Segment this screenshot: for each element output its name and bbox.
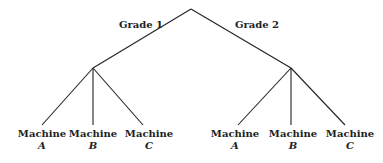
tree-diagram: Grade 1 Grade 2 Machine A Machine B Mach… [0, 0, 383, 163]
leaf-grade1-machine-c: Machine C [125, 128, 173, 152]
edge-grade-2-to-machine-c [291, 68, 345, 125]
edge-root-to-grade-1 [93, 9, 191, 68]
leaf-grade1-machine-a: Machine A [18, 128, 66, 152]
leaf-grade2-machine-c: Machine C [326, 128, 374, 152]
branch-label-grade-1: Grade 1 [119, 19, 163, 31]
edge-grade-1-to-machine-a [42, 68, 93, 125]
leaf-grade1-machine-b: Machine B [69, 128, 117, 152]
branch-label-grade-2: Grade 2 [235, 19, 279, 31]
leaf-grade2-machine-b: Machine B [269, 128, 317, 152]
leaf-grade2-machine-a: Machine A [211, 128, 259, 152]
edge-root-to-grade-2 [191, 9, 291, 68]
edge-grade-2-to-machine-a [238, 68, 291, 125]
edge-grade-1-to-machine-c [93, 68, 143, 125]
